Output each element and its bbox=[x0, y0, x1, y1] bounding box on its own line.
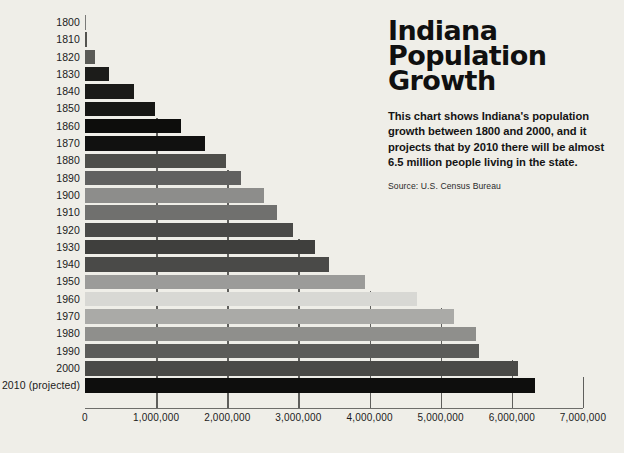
bar-row-label: 2000 bbox=[0, 360, 80, 377]
bar bbox=[85, 102, 155, 116]
bar bbox=[85, 240, 315, 254]
bar-row: 1920 bbox=[0, 222, 624, 239]
bar bbox=[85, 344, 479, 358]
bar bbox=[85, 223, 293, 237]
bar bbox=[85, 292, 417, 306]
bar-row-label: 1830 bbox=[0, 66, 80, 83]
bar-row-label: 1950 bbox=[0, 273, 80, 290]
bar bbox=[85, 15, 86, 29]
bar bbox=[85, 205, 277, 219]
bar bbox=[85, 154, 226, 168]
bar-row: 1980 bbox=[0, 325, 624, 342]
bar-row: 2000 bbox=[0, 360, 624, 377]
x-tick-label: 3,000,000 bbox=[275, 412, 321, 423]
bar bbox=[85, 361, 518, 375]
bar-row-label: 1860 bbox=[0, 118, 80, 135]
bar-row-label: 1940 bbox=[0, 256, 80, 273]
bar-row-label: 1850 bbox=[0, 100, 80, 117]
bar bbox=[85, 257, 329, 271]
bar-track bbox=[85, 344, 583, 358]
bar-row: 1960 bbox=[0, 291, 624, 308]
bar bbox=[85, 378, 535, 392]
bar-track bbox=[85, 361, 583, 375]
chart-page: 1800181018201830184018501860187018801890… bbox=[0, 0, 624, 453]
x-tick-label: 5,000,000 bbox=[418, 412, 464, 423]
x-tick-label: 4,000,000 bbox=[346, 412, 392, 423]
bar-track bbox=[85, 378, 583, 392]
bar bbox=[85, 84, 134, 98]
bar-row: 1990 bbox=[0, 343, 624, 360]
bar bbox=[85, 327, 476, 341]
bar-row-label: 1880 bbox=[0, 152, 80, 169]
bar bbox=[85, 32, 87, 46]
chart-source: Source: U.S. Census Bureau bbox=[388, 181, 610, 191]
bar-row-label: 1980 bbox=[0, 325, 80, 342]
bar-row: 1910 bbox=[0, 204, 624, 221]
bar-row: 1930 bbox=[0, 239, 624, 256]
bar bbox=[85, 275, 365, 289]
bar-track bbox=[85, 240, 583, 254]
bar-row-label: 1800 bbox=[0, 14, 80, 31]
bar bbox=[85, 309, 454, 323]
bar-track bbox=[85, 292, 583, 306]
bar-row: 1940 bbox=[0, 256, 624, 273]
info-panel: IndianaPopulationGrowth This chart shows… bbox=[388, 18, 610, 191]
bar-row-label: 1810 bbox=[0, 31, 80, 48]
x-tick-label: 0 bbox=[82, 412, 88, 423]
x-axis-tick-labels: 01,000,0002,000,0003,000,0004,000,0005,0… bbox=[0, 412, 624, 432]
bar-row-label: 1960 bbox=[0, 291, 80, 308]
title-line-3: Growth bbox=[388, 68, 610, 93]
bar bbox=[85, 188, 264, 202]
bar-row-label: 1970 bbox=[0, 308, 80, 325]
bar bbox=[85, 171, 241, 185]
bar-row: 1970 bbox=[0, 308, 624, 325]
x-tick-label: 1,000,000 bbox=[133, 412, 179, 423]
bar-row-label: 1890 bbox=[0, 170, 80, 187]
bar bbox=[85, 50, 95, 64]
page-title: IndianaPopulationGrowth bbox=[388, 18, 610, 93]
bar-row-label: 1910 bbox=[0, 204, 80, 221]
bar-row-label: 1840 bbox=[0, 83, 80, 100]
bar-row-label: 1900 bbox=[0, 187, 80, 204]
bar bbox=[85, 119, 181, 133]
bar-track bbox=[85, 257, 583, 271]
bar-row: 2010 (projected) bbox=[0, 377, 624, 394]
bar-track bbox=[85, 309, 583, 323]
bar-row-label: 2010 (projected) bbox=[0, 377, 80, 394]
bar bbox=[85, 136, 205, 150]
chart-description: This chart shows Indiana's population gr… bbox=[388, 109, 610, 171]
bar-row-label: 1820 bbox=[0, 49, 80, 66]
bar-row-label: 1920 bbox=[0, 222, 80, 239]
bar-track bbox=[85, 275, 583, 289]
x-tick-label: 2,000,000 bbox=[204, 412, 250, 423]
x-tick-label: 6,000,000 bbox=[489, 412, 535, 423]
bar bbox=[85, 67, 109, 81]
bar-track bbox=[85, 223, 583, 237]
bar-track bbox=[85, 205, 583, 219]
bar-track bbox=[85, 327, 583, 341]
bar-row: 1950 bbox=[0, 273, 624, 290]
bar-row-label: 1870 bbox=[0, 135, 80, 152]
bar-row-label: 1990 bbox=[0, 343, 80, 360]
bar-row-label: 1930 bbox=[0, 239, 80, 256]
x-tick-label: 7,000,000 bbox=[560, 412, 606, 423]
